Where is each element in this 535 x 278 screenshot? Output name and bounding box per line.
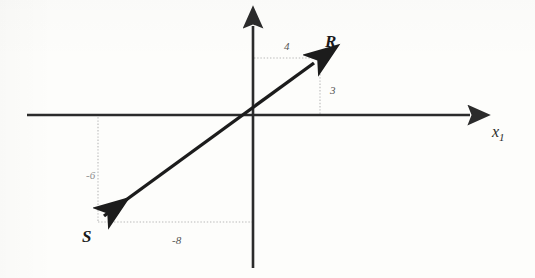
vector-diagram-svg <box>0 0 535 278</box>
guide-lines-s <box>98 114 253 222</box>
measure-label-s-horizontal: -8 <box>172 235 181 246</box>
x-axis-label: x1 <box>492 124 505 143</box>
x-axis-label-subscript: 1 <box>499 131 505 143</box>
measure-label-r-vertical: 3 <box>330 85 336 96</box>
vertex-label-r: R <box>325 33 336 50</box>
figure-canvas: R S 4 3 -6 -8 x1 <box>0 0 535 278</box>
measure-label-r-horizontal: 4 <box>284 41 290 52</box>
measure-label-s-vertical: -6 <box>86 170 95 181</box>
vertex-label-s: S <box>82 228 91 245</box>
vector-sr <box>104 63 314 216</box>
